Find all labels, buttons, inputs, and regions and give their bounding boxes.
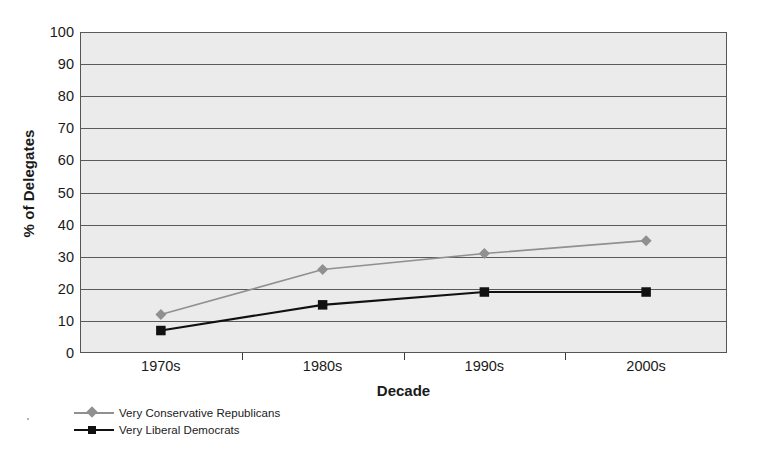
- gridline: [81, 96, 726, 97]
- y-axis-tick-label: 20: [34, 282, 74, 296]
- y-axis-tick-label: 0: [34, 346, 74, 360]
- gridline: [81, 160, 726, 161]
- chart-legend: Very Conservative Republicans Very Liber…: [74, 404, 280, 438]
- plot-area: [80, 32, 727, 353]
- y-axis-tick-label: 10: [34, 314, 74, 328]
- gridline: [81, 128, 726, 129]
- x-axis-tick-label: 1980s: [263, 358, 383, 374]
- legend-item-very-conservative-republicans: Very Conservative Republicans: [74, 404, 280, 421]
- x-axis-tick-label: 1970s: [101, 358, 221, 374]
- gridline: [81, 32, 726, 33]
- y-axis-tick-label: 80: [34, 89, 74, 103]
- y-axis-tick-label: 70: [34, 121, 74, 135]
- legend-label: Very Liberal Democrats: [119, 424, 240, 436]
- gridline: [81, 257, 726, 258]
- y-axis-tick-label: 60: [34, 153, 74, 167]
- gridline: [81, 193, 726, 194]
- y-axis-tick-label: 30: [34, 250, 74, 264]
- square-marker-icon: [74, 422, 114, 437]
- x-axis-tick-mark: [404, 353, 405, 360]
- x-axis-tick-mark: [565, 353, 566, 360]
- x-axis-tick-mark: [242, 353, 243, 360]
- y-axis-tick-label: 40: [34, 218, 74, 232]
- gridline: [81, 321, 726, 322]
- line-chart-figure: % of Delegates 0102030405060708090100 19…: [0, 0, 765, 459]
- y-axis-tick-label: 50: [34, 186, 74, 200]
- y-axis-tick-label: 90: [34, 57, 74, 71]
- gridline: [81, 225, 726, 226]
- gridline: [81, 64, 726, 65]
- x-axis-title: Decade: [80, 382, 727, 399]
- diamond-marker-icon: [74, 405, 114, 420]
- scan-artifact-dot: [27, 418, 29, 420]
- y-axis-tick-label: 100: [34, 25, 74, 39]
- x-axis-tick-label: 1990s: [424, 358, 544, 374]
- x-axis-tick-label: 2000s: [586, 358, 706, 374]
- legend-item-very-liberal-democrats: Very Liberal Democrats: [74, 421, 280, 438]
- gridline: [81, 289, 726, 290]
- legend-label: Very Conservative Republicans: [119, 407, 280, 419]
